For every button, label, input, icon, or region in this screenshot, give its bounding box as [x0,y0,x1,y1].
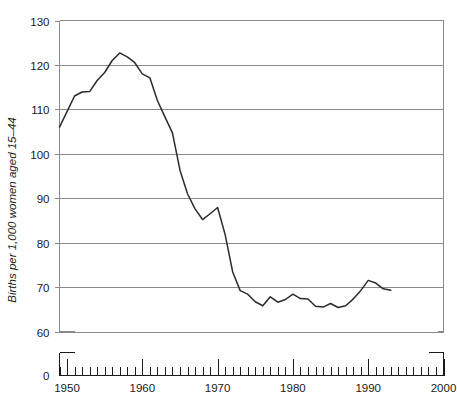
chart-background [0,0,457,403]
fertility-rate-line-chart: 060708090100110120130 Births per 1,000 w… [0,0,457,403]
x-tick-label-1990: 1990 [355,382,381,394]
y-tick-label-120: 120 [30,60,49,72]
y-tick-label-100: 100 [30,149,49,161]
chart-figure: 060708090100110120130 Births per 1,000 w… [0,0,457,403]
y-tick-label-110: 110 [31,104,49,116]
y-tick-label-60: 60 [37,327,50,339]
y-tick-label-70: 70 [37,282,50,294]
y-tick-label-80: 80 [37,238,50,250]
x-tick-label-1950: 1950 [54,382,80,394]
x-tick-label-1970: 1970 [205,382,231,394]
y-axis-title: Births per 1,000 women aged 15–44 [6,117,18,302]
y-tick-label-0: 0 [43,370,49,382]
x-tick-label-2000: 2000 [431,382,457,394]
x-tick-label-1980: 1980 [280,382,306,394]
y-tick-label-130: 130 [30,16,49,28]
x-tick-label-1960: 1960 [130,382,156,394]
y-tick-label-90: 90 [37,193,50,205]
